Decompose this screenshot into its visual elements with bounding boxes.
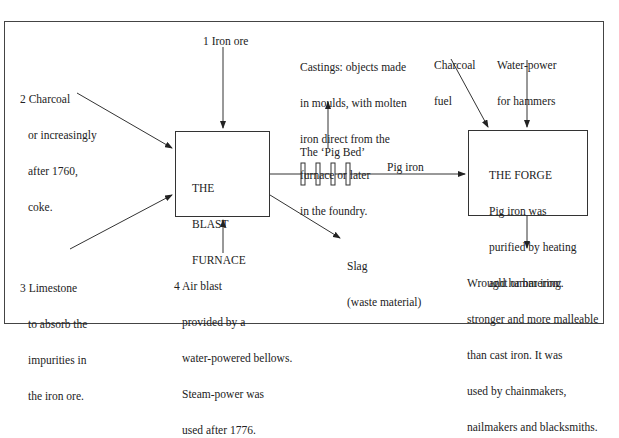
- castings-line-3: iron direct from the: [300, 133, 407, 145]
- air-blast-line-1: 4 Air blast: [174, 280, 292, 292]
- forge-line-3: purified by heating: [489, 241, 577, 253]
- wrought-iron-label: Wrought or bar iron: stronger and more m…: [467, 253, 598, 438]
- wrought-line-4: used by chainmakers,: [467, 385, 598, 397]
- forge-water-line-2: for hammers: [497, 95, 557, 107]
- air-blast-line-2: provided by a: [174, 316, 292, 328]
- wrought-line-2: stronger and more malleable: [467, 313, 598, 325]
- slag-line-1: Slag: [347, 260, 421, 272]
- forge-water-line-1: Water-power: [497, 59, 557, 71]
- castings-line-2: in moulds, with molten: [300, 97, 407, 109]
- blast-furnace-line-1: THE: [192, 182, 246, 194]
- forge-line-2: Pig iron was: [489, 205, 577, 217]
- blast-furnace-line-2: BLAST: [192, 218, 246, 230]
- slag-label: Slag (waste material): [347, 236, 421, 320]
- castings-line-1: Castings: objects made: [300, 61, 407, 73]
- castings-label: Castings: objects made in moulds, with m…: [300, 37, 407, 229]
- air-blast-line-5: used after 1776.: [174, 424, 292, 436]
- forge-charcoal-label: Charcoal fuel: [434, 35, 476, 119]
- charcoal-label: 2 Charcoal or increasingly after 1760, c…: [20, 69, 97, 225]
- forge-charcoal-line-1: Charcoal: [434, 59, 476, 71]
- wrought-line-3: than cast iron. It was: [467, 349, 598, 361]
- limestone-label: 3 Limestone to absorb the impurities in …: [20, 258, 87, 414]
- limestone-line-3: impurities in: [20, 354, 87, 366]
- charcoal-line-4: coke.: [20, 201, 97, 213]
- air-blast-line-4: Steam-power was: [174, 388, 292, 400]
- slag-line-2: (waste material): [347, 296, 421, 308]
- wrought-line-5: nailmakers and blacksmiths.: [467, 421, 598, 433]
- forge-title: THE FORGE: [489, 169, 577, 181]
- forge-box: THE FORGE Pig iron was purified by heati…: [468, 130, 588, 216]
- charcoal-line-2: or increasingly: [20, 129, 97, 141]
- blast-furnace-box: THE BLAST FURNACE: [175, 131, 270, 217]
- pig-bed-label: The ‘Pig Bed’: [300, 146, 365, 158]
- iron-ore-label: 1 Iron ore: [203, 35, 248, 47]
- limestone-line-2: to absorb the: [20, 318, 87, 330]
- charcoal-line-3: after 1760,: [20, 165, 97, 177]
- charcoal-line-1: 2 Charcoal: [20, 93, 97, 105]
- forge-charcoal-line-2: fuel: [434, 95, 476, 107]
- limestone-line-1: 3 Limestone: [20, 282, 87, 294]
- air-blast-label: 4 Air blast provided by a water-powered …: [174, 256, 292, 438]
- pig-iron-label: Pig iron: [387, 161, 424, 173]
- castings-line-5: in the foundry.: [300, 205, 407, 217]
- forge-water-label: Water-power for hammers: [497, 35, 557, 119]
- wrought-line-1: Wrought or bar iron:: [467, 277, 598, 289]
- air-blast-line-3: water-powered bellows.: [174, 352, 292, 364]
- limestone-line-4: the iron ore.: [20, 390, 87, 402]
